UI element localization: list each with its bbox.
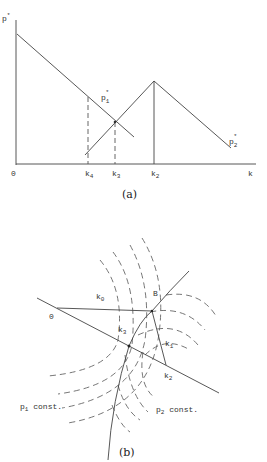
p2-const-label: p2 const. [156, 405, 198, 416]
p1-const-curve [62, 245, 147, 408]
p1-const-curve [68, 238, 161, 423]
point-o-label: 0 [49, 312, 54, 321]
x-axis-label: k [248, 169, 253, 178]
intersection-point [128, 345, 131, 348]
caption-b: (b) [119, 446, 135, 459]
p1-const-label: p1 const. [20, 402, 62, 413]
caption-a: (a) [122, 188, 137, 201]
y-axis-label: p* [2, 12, 10, 23]
tick-k4: k4 [85, 169, 94, 180]
figure-canvas: p* p1* p2* 0 k4 k3 k2 k (a) [0, 0, 267, 462]
intersection-point [114, 121, 117, 124]
point-b-label: B [153, 289, 158, 298]
p1-const-curve [48, 260, 120, 376]
p2-const-curve [166, 294, 216, 316]
k1-label: k1 [165, 339, 174, 350]
origin-label: 0 [11, 169, 16, 178]
p1-star-label: p1* [101, 89, 110, 105]
p2-const-curve [112, 405, 130, 432]
p2-const-curve [150, 310, 205, 330]
ridge-line [108, 271, 189, 460]
k0-label: k0 [96, 292, 105, 303]
tick-k2: k2 [151, 169, 160, 180]
k2-label: k2 [164, 371, 173, 382]
figure-a: p* p1* p2* 0 k4 k3 k2 k (a) [2, 12, 256, 201]
p2-const-curve [118, 385, 140, 420]
figure-b: 0 B k0 k3 k1 k2 p1 const. p2 const. (b) [20, 238, 219, 460]
tick-k3: k3 [112, 169, 121, 180]
p2-star-label: p2* [229, 133, 238, 149]
point-b [151, 310, 153, 312]
k0-line [57, 308, 152, 311]
k3-label: k3 [118, 325, 127, 336]
